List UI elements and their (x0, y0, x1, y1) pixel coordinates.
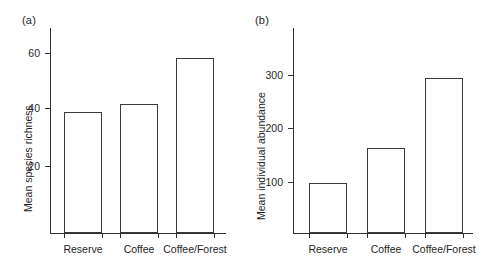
panel-a-ytick-label-60: 60 (10, 47, 40, 59)
panel-a-ytick-mark-60 (45, 53, 50, 54)
panel-b-xlabel-coffee-forest: Coffee/Forest (412, 243, 475, 255)
panel-a-xlabel-coffee: Coffee (124, 243, 155, 255)
panel-a-y-axis (50, 28, 51, 234)
panel-b-ytick-label-100: 100 (249, 176, 283, 188)
panel-b-xtick-3 (367, 233, 368, 238)
bar-reserve (309, 183, 347, 233)
panel-b-xtick-5 (425, 233, 426, 238)
panel-b-y-axis (293, 28, 294, 234)
panel-a-xlabel-coffee-forest: Coffee/Forest (163, 243, 226, 255)
panel-b-xlabel-reserve: Reserve (308, 243, 347, 255)
panel-b: (b) Mean individual abundance 100 200 30… (241, 0, 482, 266)
panel-a-xlabel-reserve: Reserve (63, 243, 102, 255)
bar-coffee (120, 104, 158, 233)
panel-a: (a) Mean species richness 20 40 60 (0, 0, 241, 266)
panel-b-ytick-mark-200 (288, 128, 293, 129)
panel-b-ytick-mark-300 (288, 75, 293, 76)
bar-coffee-forest (176, 58, 214, 233)
panel-a-xtick-1 (64, 233, 65, 238)
panel-b-plot-area: 100 200 300 Reserve Coffee Coffee/Forest (293, 28, 478, 233)
panel-b-label: (b) (255, 14, 269, 26)
panel-a-y-axis-label: Mean species richness (22, 105, 34, 212)
panel-a-xtick-3 (120, 233, 121, 238)
panel-a-xtick-2 (102, 233, 103, 238)
panel-b-ytick-mark-100 (288, 182, 293, 183)
panel-a-xtick-6 (214, 233, 215, 238)
panel-b-y-axis-label: Mean individual abundance (255, 92, 267, 220)
panel-a-plot-area: 20 40 60 Reserve Coffee Coffee/Forest (50, 28, 230, 233)
panel-b-xtick-2 (347, 233, 348, 238)
panel-a-label: (a) (22, 14, 36, 26)
panel-b-x-axis (293, 233, 473, 234)
panel-a-ytick-label-40: 40 (10, 102, 40, 114)
panel-b-xtick-4 (405, 233, 406, 238)
bar-reserve (64, 112, 102, 233)
panel-b-xlabel-coffee: Coffee (371, 243, 402, 255)
bar-coffee (367, 148, 405, 233)
panel-a-ytick-mark-40 (45, 108, 50, 109)
panel-a-x-axis (50, 233, 226, 234)
panel-b-xtick-1 (309, 233, 310, 238)
panel-b-ytick-label-300: 300 (249, 69, 283, 81)
panel-b-xtick-6 (463, 233, 464, 238)
panel-a-xtick-4 (158, 233, 159, 238)
panel-a-ytick-label-20: 20 (10, 160, 40, 172)
figure-two-panel-bar-charts: (a) Mean species richness 20 40 60 (0, 0, 482, 266)
bar-coffee-forest (425, 78, 463, 233)
panel-b-ytick-label-200: 200 (249, 122, 283, 134)
panel-a-xtick-5 (176, 233, 177, 238)
panel-a-ytick-mark-20 (45, 166, 50, 167)
